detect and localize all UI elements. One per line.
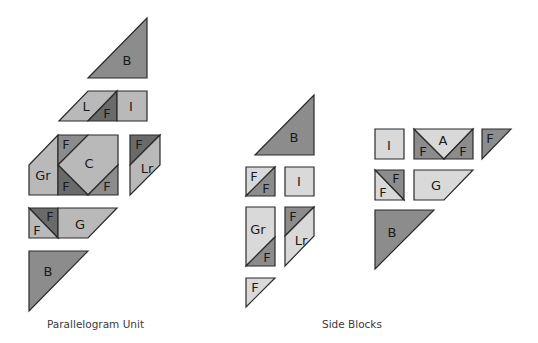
piece-label: F [251,280,258,295]
quilt-piece-sb-g: G [414,170,473,200]
piece-label: F [486,131,493,146]
parallelogram-unit-caption: Parallelogram Unit [47,318,144,330]
quilt-piece-sb-i-left: I [285,167,314,196]
piece-shape [375,210,434,269]
quilt-piece-sb-f-single-right: F [482,129,511,159]
quilt-piece-sb-b-top: B [255,95,314,155]
piece-label: B [388,225,397,240]
piece-shape [255,95,314,155]
piece-label: F [379,185,386,200]
piece-label: Gr [250,222,266,237]
quilt-diagram: BLFIGrFCFFFLrFFGB BFFIGrFFLrFIFAFFFFGB P… [0,0,538,343]
side-blocks-diagram: BFFIGrFFLrFIFAFFFFGB [0,0,538,343]
piece-label: F [459,144,466,159]
piece-label: G [431,178,441,193]
piece-label: F [262,181,269,196]
piece-label: F [250,169,257,184]
piece-label: F [392,171,399,186]
quilt-piece-sb-b-bottom: B [375,210,434,269]
piece-label: F [289,209,296,224]
piece-label: I [387,138,391,153]
piece-label: A [439,133,448,148]
piece-label: F [419,144,426,159]
piece-label: I [297,174,301,189]
quilt-piece-sb-f-single-left: F [246,278,275,307]
piece-label: Lr [295,233,308,248]
piece-label: F [263,250,270,265]
piece-shape [414,170,473,200]
piece-label: B [290,130,299,145]
quilt-piece-sb-i-right: I [375,129,404,159]
side-blocks-caption: Side Blocks [322,318,382,330]
